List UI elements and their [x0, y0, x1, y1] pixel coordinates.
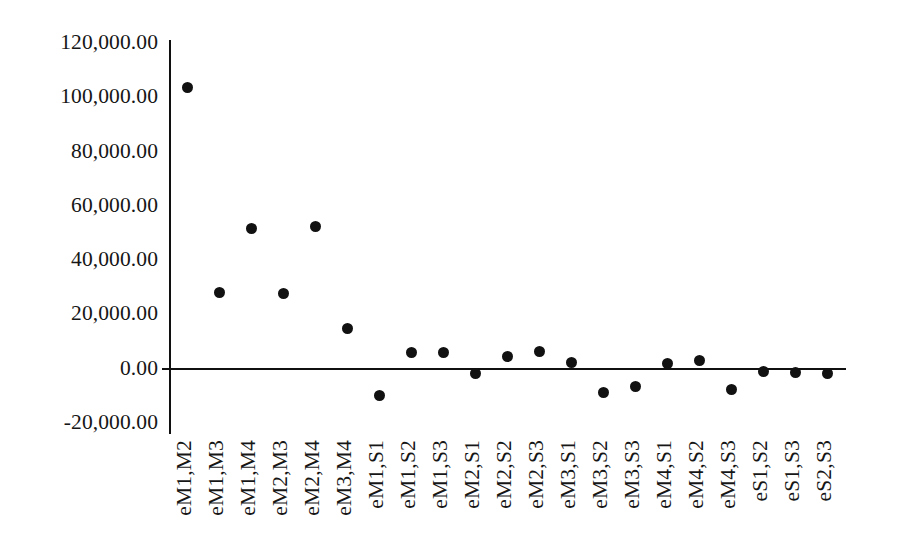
scatter-chart: 120,000.00100,000.0080,000.0060,000.0040…	[0, 0, 898, 554]
x-axis-tick-label: eS2,S3	[827, 440, 849, 502]
x-axis-tick-labels: eM1,M2eM1,M3eM1,M4eM2,M3eM2,M4eM3,M4eM1,…	[0, 0, 898, 554]
